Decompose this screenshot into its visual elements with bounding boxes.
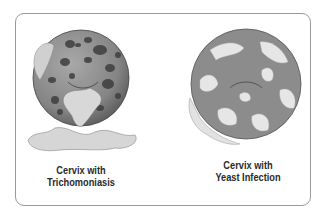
caption-line: Cervix with [34,164,127,176]
caption-trichomoniasis: Cervix with Trichomoniasis [34,164,127,188]
cervix-trichomoniasis-image [28,30,136,151]
caption-yeast-infection: Cervix with Yeast Infection [200,159,295,183]
caption-line: Cervix with [200,159,295,171]
caption-line: Trichomoniasis [34,176,127,188]
cervix-yeast-infection-image [189,29,301,144]
caption-line: Yeast Infection [200,171,295,183]
